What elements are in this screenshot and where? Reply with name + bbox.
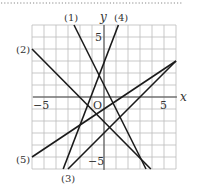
y-axis-label: y [99, 10, 107, 24]
line-label-1: (1) [64, 12, 78, 23]
line-label-3: (3) [61, 173, 75, 184]
graph-figure: x y O −5 5 5 −5 (1) (2) (3) (4) (5) [0, 0, 198, 189]
tick-x-neg5: −5 [33, 99, 49, 112]
origin-label: O [93, 99, 102, 112]
line-label-2: (2) [16, 44, 30, 55]
tick-y-pos5: 5 [95, 31, 102, 44]
x-axis-label: x [180, 90, 187, 104]
line-label-4: (4) [114, 12, 128, 23]
axes [33, 25, 177, 170]
tick-x-pos5: 5 [160, 99, 167, 112]
tick-y-neg5: −5 [88, 155, 104, 168]
line-label-5: (5) [16, 154, 30, 165]
